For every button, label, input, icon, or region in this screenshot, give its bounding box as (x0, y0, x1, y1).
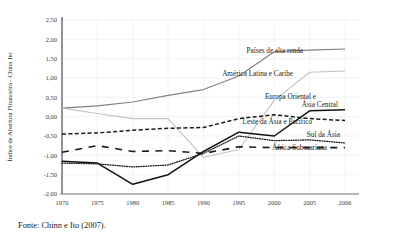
y-tick-label: 2,00 (46, 36, 57, 43)
y-tick-label: -1,00 (44, 152, 57, 159)
y-tick-label: 0,50 (46, 94, 57, 101)
series-label: Europa Oriental e (265, 93, 316, 101)
x-tick-labels: 197019751980198519901995200020052006 (56, 199, 352, 206)
series-label: Países de alta renda (247, 47, 304, 55)
x-tick-label: 2006 (339, 199, 352, 206)
x-tick-label: 1970 (56, 199, 69, 206)
x-tick-label: 1990 (197, 199, 210, 206)
x-tick-label: 2005 (303, 199, 316, 206)
y-tick-label: 2,50 (46, 16, 57, 23)
series-label: América Latina e Caribe (222, 70, 293, 78)
figure-chinn-ito-openness: 2,502,001,501,000,500,00-0,50-1,00-1,50-… (0, 0, 401, 238)
x-tick-label: 1985 (162, 199, 175, 206)
x-tick-label: 1980 (126, 199, 139, 206)
series-label: África Subsaariana (272, 142, 328, 152)
y-tick-label: 1,00 (46, 74, 57, 81)
line-chart-canvas: 2,502,001,501,000,500,00-0,50-1,00-1,50-… (0, 0, 401, 238)
x-tick-label: 2000 (268, 199, 281, 206)
series-label: Sul da Ásia (307, 129, 341, 139)
source-note: Fonte: Chinn e Ito (2007). (18, 221, 106, 230)
y-tick-labels: 2,502,001,501,000,500,00-0,50-1,00-1,50-… (44, 16, 57, 197)
y-tick-label: 0,00 (46, 113, 57, 120)
y-axis-title: Índice de Abertura Financeira - Chinn It… (6, 52, 13, 162)
series-label-line2: Ásia Central (302, 99, 338, 109)
x-tick-label: 1975 (91, 199, 104, 206)
y-axis-title-text: Índice de Abertura Financeira - Chinn It… (6, 52, 13, 162)
y-tick-label: -0,50 (44, 132, 57, 139)
y-tick-label: -2,00 (44, 190, 57, 197)
y-tick-label: -1,50 (44, 171, 57, 178)
y-tick-label: 1,50 (46, 55, 57, 62)
x-tick-label: 1995 (232, 199, 245, 206)
series-label: Leste da Ásia e Pacífico (243, 116, 313, 126)
